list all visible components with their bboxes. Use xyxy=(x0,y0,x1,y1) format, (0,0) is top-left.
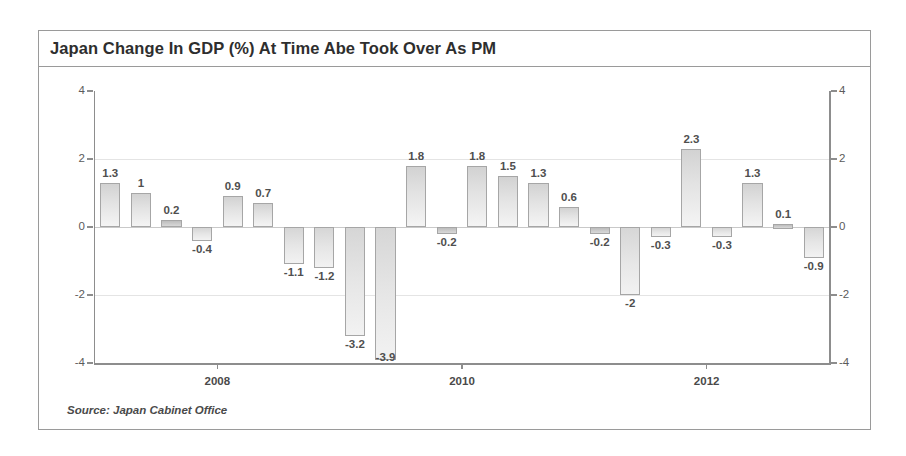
bar-value-label: -0.3 xyxy=(712,240,732,252)
bar xyxy=(345,227,365,336)
y-axis-label-right: 2 xyxy=(839,153,857,165)
bar-value-label: -2 xyxy=(625,298,635,310)
bar-value-label: -0.9 xyxy=(804,261,824,273)
y-axis-label-left: -4 xyxy=(69,357,85,369)
bar xyxy=(712,227,732,237)
x-axis-label: 2008 xyxy=(205,375,231,387)
bar xyxy=(528,183,548,227)
bar xyxy=(559,207,579,227)
bar-value-label: -0.4 xyxy=(192,244,212,256)
bar-value-label: -3.2 xyxy=(345,339,365,351)
bar-value-label: 1.3 xyxy=(102,168,118,180)
bar xyxy=(804,227,824,258)
x-tick xyxy=(217,363,219,369)
bar xyxy=(437,227,457,234)
bar-value-label: 0.9 xyxy=(225,181,241,193)
y-axis-left xyxy=(94,91,96,363)
x-tick xyxy=(461,363,463,369)
x-axis-label: 2012 xyxy=(694,375,720,387)
bar-value-label: 1.3 xyxy=(530,168,546,180)
bar-value-label: -0.3 xyxy=(651,240,671,252)
source-note: Source: Japan Cabinet Office xyxy=(67,404,227,416)
bar-value-label: 1.3 xyxy=(745,168,761,180)
bar-value-label: 2.3 xyxy=(683,134,699,146)
bar-value-label: -3.9 xyxy=(376,352,396,364)
y-axis-label-right: -2 xyxy=(839,289,857,301)
y-tick-left xyxy=(87,294,93,296)
bar xyxy=(681,149,701,227)
bar xyxy=(742,183,762,227)
bar-value-label: 1.8 xyxy=(408,151,424,163)
bar xyxy=(375,227,395,360)
bar xyxy=(314,227,334,268)
y-tick-right xyxy=(831,226,837,228)
chart-frame: Japan Change In GDP (%) At Time Abe Took… xyxy=(38,30,871,430)
bar xyxy=(253,203,273,227)
y-tick-right xyxy=(831,294,837,296)
bar xyxy=(100,183,120,227)
y-tick-left xyxy=(87,158,93,160)
y-axis-label-right: 0 xyxy=(839,221,857,233)
x-tick xyxy=(706,363,708,369)
y-tick-left xyxy=(87,226,93,228)
bar xyxy=(773,224,793,229)
y-tick-right xyxy=(831,362,837,364)
y-axis-label-right: -4 xyxy=(839,357,857,369)
y-axis-label-left: -2 xyxy=(69,289,85,301)
bar-value-label: 0.2 xyxy=(163,205,179,217)
bar xyxy=(131,193,151,227)
bar xyxy=(620,227,640,295)
bar xyxy=(161,220,181,227)
bar-value-label: -1.2 xyxy=(314,271,334,283)
bar-value-label: 0.7 xyxy=(255,188,271,200)
bar xyxy=(406,166,426,227)
bar xyxy=(192,227,212,241)
bar xyxy=(651,227,671,237)
y-axis-label-left: 0 xyxy=(69,221,85,233)
bar-value-label: 0.6 xyxy=(561,192,577,204)
bar-value-label: -1.1 xyxy=(284,267,304,279)
x-axis-label: 2010 xyxy=(449,375,475,387)
chart-title-bar: Japan Change In GDP (%) At Time Abe Took… xyxy=(39,31,870,67)
y-tick-right xyxy=(831,90,837,92)
y-tick-right xyxy=(831,158,837,160)
y-tick-left xyxy=(87,90,93,92)
gridline xyxy=(95,159,829,160)
bar-value-label: 0.1 xyxy=(775,209,791,221)
gridline xyxy=(95,295,829,296)
bar-value-label: 1.5 xyxy=(500,161,516,173)
bar xyxy=(467,166,487,227)
y-axis-label-left: 4 xyxy=(69,85,85,97)
plot-wrapper: 442200-2-2-4-4 200820102012 1.310.2-0.40… xyxy=(39,67,870,431)
y-axis-label-left: 2 xyxy=(69,153,85,165)
bar xyxy=(284,227,304,264)
bar xyxy=(223,196,243,227)
plot-area: 442200-2-2-4-4 200820102012 1.310.2-0.40… xyxy=(95,91,829,363)
page-title: Japan Change In GDP (%) At Time Abe Took… xyxy=(39,39,496,58)
bar-value-label: 1 xyxy=(138,178,144,190)
y-axis-label-right: 4 xyxy=(839,85,857,97)
bar xyxy=(498,176,518,227)
bar-value-label: 1.8 xyxy=(469,151,485,163)
bar-value-label: -0.2 xyxy=(590,237,610,249)
bar xyxy=(590,227,610,234)
bar-value-label: -0.2 xyxy=(437,237,457,249)
y-tick-left xyxy=(87,362,93,364)
